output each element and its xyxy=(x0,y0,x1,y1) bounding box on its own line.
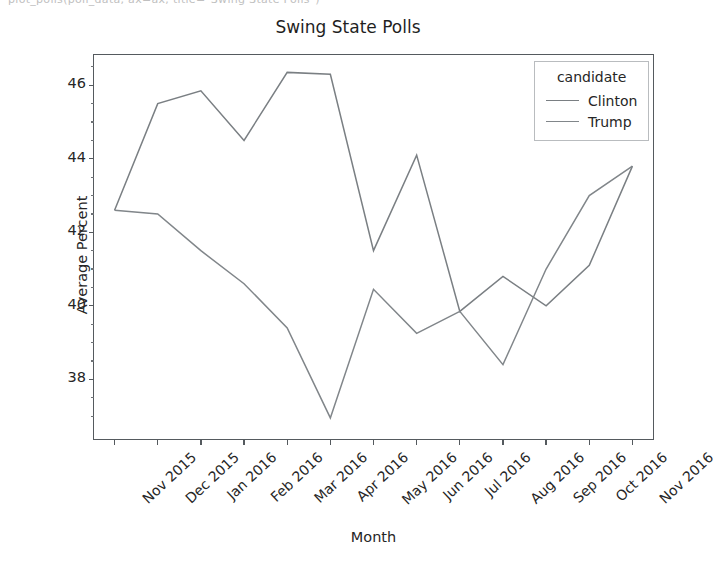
clipped-code-strip: plot_polls(poll_data, ax=ax, title="Swin… xyxy=(0,0,696,11)
legend-swatch-trump xyxy=(546,121,579,122)
legend-entries: ClintonTrump xyxy=(546,90,637,132)
x-tick-mark xyxy=(157,440,158,445)
chart-title: Swing State Polls xyxy=(0,17,696,37)
x-tick-mark xyxy=(589,440,590,445)
x-axis-label: Month xyxy=(93,529,654,545)
y-tick-label: 38 xyxy=(46,369,86,385)
x-tick-mark xyxy=(114,440,115,445)
x-tick-mark xyxy=(459,440,460,445)
legend-title: candidate xyxy=(546,69,637,85)
legend-label-trump: Trump xyxy=(588,114,632,130)
x-tick-mark xyxy=(502,440,503,445)
y-tick-label: 44 xyxy=(46,149,86,165)
y-tick-label: 40 xyxy=(46,296,86,312)
x-tick-mark xyxy=(373,440,374,445)
legend-swatch-clinton xyxy=(546,100,579,101)
x-tick-mark xyxy=(200,440,201,445)
x-tick-mark xyxy=(243,440,244,445)
y-axis-label: Average Percent xyxy=(74,155,90,355)
x-tick-mark xyxy=(330,440,331,445)
x-tick-mark xyxy=(545,440,546,445)
legend: candidate ClintonTrump xyxy=(534,61,649,141)
clipped-code-text: plot_polls(poll_data, ax=ax, title="Swin… xyxy=(8,0,320,6)
y-tick-label: 42 xyxy=(46,222,86,238)
x-tick-mark xyxy=(632,440,633,445)
legend-item-trump[interactable]: Trump xyxy=(546,111,637,132)
legend-label-clinton: Clinton xyxy=(588,93,637,109)
x-tick-mark xyxy=(287,440,288,445)
y-tick-label: 46 xyxy=(46,75,86,91)
x-tick-mark xyxy=(416,440,417,445)
legend-item-clinton[interactable]: Clinton xyxy=(546,90,637,111)
series-line-trump xyxy=(115,166,633,418)
